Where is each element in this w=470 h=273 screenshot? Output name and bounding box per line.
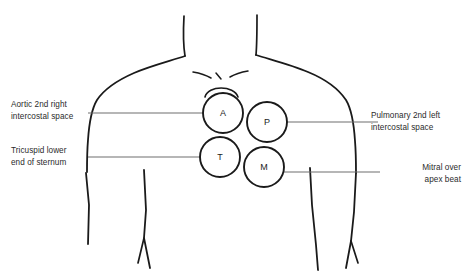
mitral-label-line2: apex beat [383,174,461,186]
tricuspid-point-letter: T [200,137,240,177]
pulmonary-point-letter: P [247,102,287,142]
left-arm-inner-line [86,173,89,244]
auscultation-diagram: A P T M Aortic 2nd right intercostal spa… [0,0,470,273]
neck-left-line [183,16,185,56]
mitral-label-line1: Mitral over [383,162,461,174]
pulmonary-label: Pulmonary 2nd left intercostal space [371,110,440,133]
aortic-label: Aortic 2nd right intercostal space [11,99,73,122]
aortic-point-letter: A [203,93,243,133]
right-arm-outer-line [310,168,318,270]
mitral-point-letter: M [244,147,284,187]
mitral-label: Mitral over apex beat [383,162,461,185]
tricuspid-label-line1: Tricuspid lower [11,145,67,157]
right-clavicle-mark [230,71,248,77]
aortic-label-line2: intercostal space [11,111,73,123]
sternal-tick-mark [216,73,221,79]
right-arm-fork-line [351,241,358,263]
left-arm-fork-line [138,238,144,263]
tricuspid-label-line2: end of sternum [11,157,67,169]
left-shoulder-outline [87,56,185,172]
tricuspid-label: Tricuspid lower end of sternum [11,145,67,168]
left-arm-outer-line [144,170,150,268]
pulmonary-label-line1: Pulmonary 2nd left [371,110,440,122]
left-clavicle-mark [193,72,211,78]
neck-right-line [256,15,257,55]
aortic-label-line1: Aortic 2nd right [11,99,73,111]
pulmonary-label-line2: intercostal space [371,122,440,134]
